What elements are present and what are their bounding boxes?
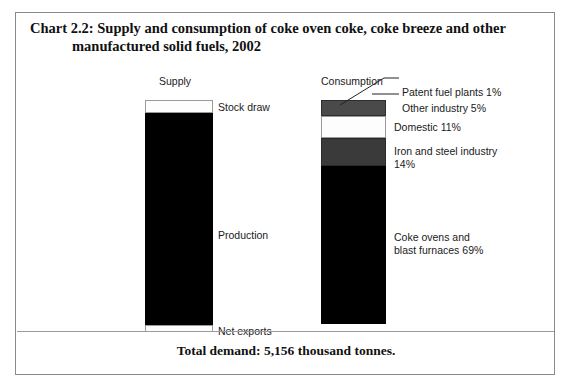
supply-segment-production: [145, 113, 213, 325]
footer-divider: [17, 331, 554, 332]
label-coke-ovens-line-1: Coke ovens and: [394, 231, 470, 243]
label-patent-fuel-plants: Patent fuel plants 1%: [402, 86, 501, 99]
label-iron-and-steel-line-2: 14%: [394, 158, 415, 170]
consumption-segment-patent-fuel-and-other-industry: [321, 100, 386, 116]
chart-title-line-1: Chart 2.2: Supply and consumption of cok…: [30, 20, 506, 36]
consumption-column-header: Consumption: [321, 75, 383, 87]
label-stock-draw: Stock draw: [218, 101, 270, 114]
consumption-segment-coke-ovens: [321, 166, 386, 324]
consumption-segment-iron-and-steel: [321, 138, 386, 166]
leader-lines: [16, 13, 556, 376]
total-demand-annotation: Total demand: 5,156 thousand tonnes.: [16, 343, 556, 359]
label-coke-ovens-and-blast-furnaces: Coke ovens and blast furnaces 69%: [394, 231, 514, 257]
label-iron-and-steel-industry: Iron and steel industry 14%: [394, 145, 514, 171]
supply-segment-stock-draw: [145, 100, 213, 113]
consumption-segment-domestic: [321, 116, 386, 138]
page-title: Chart 2.2: Supply and consumption of cok…: [30, 19, 542, 55]
label-other-industry: Other industry 5%: [402, 102, 486, 115]
chart-title-line-2: manufactured solid fuels, 2002: [30, 37, 542, 55]
supply-column-header: Supply: [159, 75, 191, 87]
label-iron-and-steel-line-1: Iron and steel industry: [394, 145, 497, 157]
label-coke-ovens-line-2: blast furnaces 69%: [394, 244, 483, 256]
label-production: Production: [218, 229, 268, 242]
consumption-bar: [321, 100, 386, 324]
label-domestic: Domestic 11%: [394, 121, 461, 134]
chart-frame: Chart 2.2: Supply and consumption of cok…: [15, 12, 555, 375]
supply-bar: [145, 100, 213, 332]
